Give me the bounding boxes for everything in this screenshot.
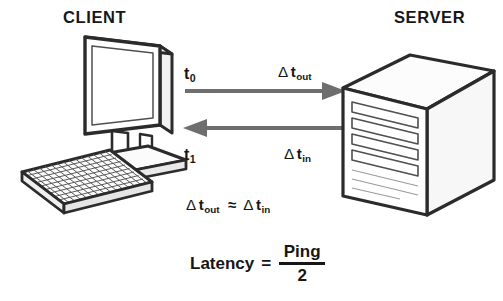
label-dt-out-subscript: out (296, 71, 311, 82)
approx-left-subscript: out (204, 204, 219, 215)
arrow-outbound (185, 82, 346, 100)
label-dt-out-base: t (291, 63, 296, 80)
approx-operator: ≈ (228, 196, 236, 213)
label-delta-t-in: Δtin (284, 146, 311, 161)
fraction-numerator: Ping (281, 243, 324, 262)
label-dt-in-base: t (297, 145, 302, 162)
delta-symbol: Δ (186, 196, 196, 213)
approx-left-base: t (199, 196, 204, 213)
label-t0: t0 (184, 66, 195, 82)
client-monitor-illustration (85, 37, 172, 134)
delta-symbol: Δ (284, 145, 294, 162)
server-heading: SERVER (394, 8, 465, 27)
label-delta-t-out: Δtout (278, 64, 311, 79)
arrow-inbound-head (183, 119, 207, 137)
server-illustration (343, 55, 494, 215)
label-t1-base: t (184, 146, 189, 163)
latency-label: Latency (190, 254, 254, 274)
latency-equals-sign: = (261, 254, 271, 274)
equation-latency: Latency = Ping 2 (190, 243, 325, 284)
equation-delta-approx: Δtout≈Δtin (186, 197, 270, 212)
client-heading: CLIENT (63, 8, 126, 27)
approx-right-subscript: in (262, 204, 271, 215)
arrow-inbound (183, 119, 345, 137)
label-t1-subscript: 1 (190, 153, 196, 165)
latency-diagram: CLIENT SERVER t0 t1 Δtout Δtin Δtout≈Δti… (0, 0, 503, 301)
fraction-denominator: 2 (297, 265, 306, 285)
approx-right-base: t (256, 196, 261, 213)
latency-fraction: Ping 2 (279, 243, 325, 284)
monitor-depth-face (160, 46, 172, 133)
delta-symbol: Δ (278, 63, 288, 80)
label-t0-subscript: 0 (190, 72, 196, 84)
label-dt-in-subscript: in (302, 153, 311, 164)
label-t1: t1 (184, 147, 195, 163)
delta-symbol: Δ (243, 196, 253, 213)
label-t0-base: t (184, 65, 189, 82)
monitor-screen (92, 46, 153, 125)
